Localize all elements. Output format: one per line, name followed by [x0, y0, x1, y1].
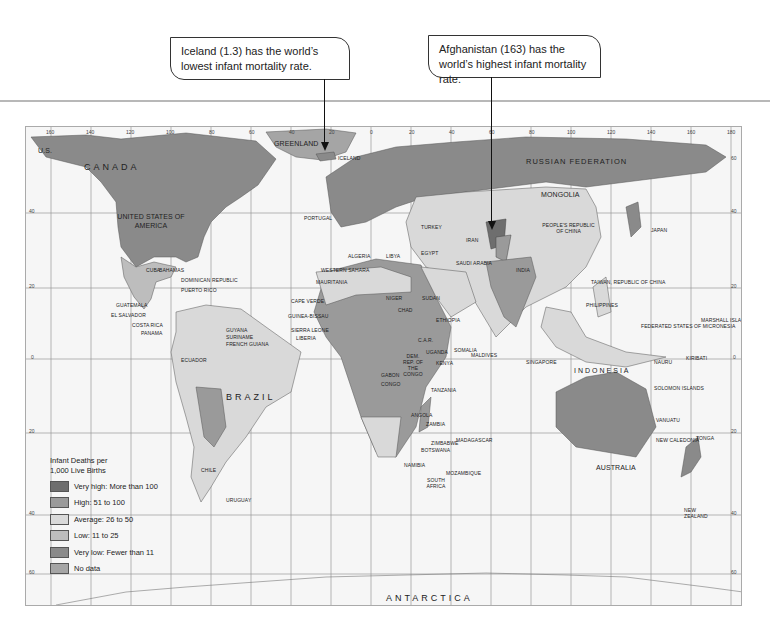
label-chile: CHILE: [201, 467, 216, 473]
lon-tick: 80: [529, 129, 535, 135]
label-tanzania: TANZANIA: [431, 387, 456, 393]
label-libya: LIBYA: [386, 253, 400, 259]
lat-tick: 60: [731, 155, 737, 161]
horizontal-rule: [0, 100, 770, 102]
label-zambia: ZAMBIA: [426, 421, 445, 427]
lon-tick: 40: [289, 129, 295, 135]
label-mozambique: MOZAMBIQUE: [446, 470, 481, 476]
label-car: C.A.R.: [418, 337, 433, 343]
label-ethiopia: ETHIOPIA: [436, 317, 460, 323]
label-micronesia: FEDERATED STATES OF MICRONESIA: [641, 323, 735, 329]
afghanistan-arrow-icon: [488, 221, 496, 230]
label-chad: CHAD: [398, 307, 413, 313]
label-kenya: KENYA: [436, 360, 453, 366]
label-liberia: LIBERIA: [296, 335, 316, 341]
legend-label: Very high: More than 100: [74, 482, 158, 491]
lat-tick: 40: [731, 510, 737, 516]
lon-tick: 20: [409, 129, 415, 135]
southern-africa: [361, 417, 401, 457]
label-new-caledonia: NEW CALEDONIA: [656, 437, 699, 443]
label-western-sahara: WESTERN SAHARA: [321, 267, 369, 273]
lon-tick: 60: [249, 129, 255, 135]
legend-item-very-high: Very high: More than 100: [50, 478, 200, 495]
iceland-arrow-icon: [321, 142, 329, 151]
label-bahamas: BAHAMAS: [159, 267, 184, 273]
lat-tick: 40: [29, 208, 35, 214]
label-angola: ANGOLA: [411, 412, 432, 418]
label-new-zealand: NEW ZEALAND: [684, 507, 706, 519]
label-indonesia: INDONESIA: [574, 367, 631, 374]
north-america: [31, 133, 276, 267]
label-kiribati: KIRIBATI: [686, 355, 707, 361]
label-iceland: ICELAND: [338, 155, 360, 161]
label-uganda: UGANDA: [426, 349, 448, 355]
label-india: INDIA: [516, 267, 530, 273]
label-zimbabwe: ZIMBABWE: [431, 440, 458, 446]
label-french-guiana: FRENCH GUIANA: [226, 341, 269, 347]
legend-swatch: [50, 530, 69, 541]
label-nauru: NAURU: [654, 359, 672, 365]
new-zealand: [681, 437, 701, 477]
label-japan: JAPAN: [651, 227, 667, 233]
label-mauritania: MAURITANIA: [316, 279, 347, 285]
label-sudan: SUDAN: [422, 295, 440, 301]
label-russia: RUSSIAN FEDERATION: [526, 157, 627, 166]
label-uruguay: URUGUAY: [226, 497, 251, 503]
legend-swatch: [50, 497, 69, 508]
label-south-africa: SOUTH AFRICA: [424, 477, 448, 489]
callout-afghanistan-text: Afghanistan (163) has the world’s highes…: [439, 43, 586, 85]
callout-afghanistan: Afghanistan (163) has the world’s highes…: [428, 35, 601, 78]
legend-item-low: Low: 11 to 25: [50, 528, 200, 545]
iceland-leader-line: [324, 79, 325, 143]
label-namibia: NAMIBIA: [404, 462, 425, 468]
afghanistan-leader-line: [491, 77, 492, 222]
label-greenland: GREENLAND: [274, 140, 318, 147]
callout-iceland-text: Iceland (1.3) has the world’s lowest inf…: [181, 45, 318, 72]
legend-item-average: Average: 26 to 50: [50, 511, 200, 528]
lat-tick: 60: [29, 569, 35, 575]
label-philippines: PHILIPPINES: [586, 302, 618, 308]
label-botswana: BOTSWANA: [421, 447, 450, 453]
label-congo: CONGO: [381, 381, 400, 387]
japan: [626, 202, 641, 237]
label-brazil: BRAZIL: [226, 392, 276, 402]
label-australia: AUSTRALIA: [596, 464, 636, 471]
callout-iceland: Iceland (1.3) has the world’s lowest inf…: [170, 37, 350, 80]
label-gabon: GABON: [381, 372, 400, 378]
lat-tick: 40: [731, 208, 737, 214]
label-sierra-leone: SIERRA LEONE: [291, 327, 329, 333]
label-usa: UNITED STATES OF AMERICA: [111, 212, 191, 230]
lat-tick: 20: [731, 283, 737, 289]
map-legend: Infant Deaths per 1,000 Live Births Very…: [50, 456, 200, 577]
lat-tick: 20: [731, 428, 737, 434]
lon-tick: 140: [86, 129, 94, 135]
label-taiwan: TAIWAN, REPUBLIC OF CHINA: [591, 279, 665, 285]
legend-label: No data: [74, 564, 100, 573]
lat-tick: 20: [29, 428, 35, 434]
label-egypt: EGYPT: [421, 250, 438, 256]
label-guinea-bissau: GUINEA-BISSAU: [288, 313, 328, 319]
lon-tick: 140: [647, 129, 655, 135]
legend-label: Average: 26 to 50: [74, 515, 133, 524]
label-singapore: SINGAPORE: [526, 359, 557, 365]
lon-tick: 120: [126, 129, 134, 135]
lat-tick: 0: [733, 354, 736, 360]
label-guatemala: GUATEMALA: [116, 302, 147, 308]
label-vanuatu: VANUATU: [656, 417, 680, 423]
label-us-alaska: U.S.: [38, 147, 52, 154]
label-puerto-rico: PUERTO RICO: [181, 287, 217, 293]
lon-tick: 0: [370, 129, 373, 135]
label-ecuador: ECUADOR: [181, 357, 207, 363]
label-guyana: GUYANA: [226, 327, 247, 333]
lon-tick: 100: [567, 129, 575, 135]
legend-item-no-data: No data: [50, 561, 200, 578]
lon-tick: 40: [449, 129, 455, 135]
indonesia: [541, 307, 666, 367]
lat-tick: 60: [731, 569, 737, 575]
label-el-salvador: EL SALVADOR: [111, 312, 146, 318]
label-madagascar: MADAGASCAR: [456, 437, 493, 443]
label-algeria: ALGERIA: [348, 253, 370, 259]
label-mongolia: MONGOLIA: [541, 191, 580, 198]
lon-tick: 100: [166, 129, 174, 135]
label-canada: CANADA: [84, 162, 140, 172]
